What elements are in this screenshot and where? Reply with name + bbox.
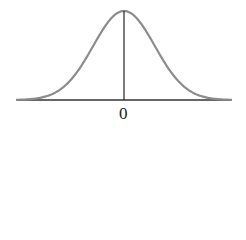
x-tick-label-zero: 0 [119, 105, 128, 122]
